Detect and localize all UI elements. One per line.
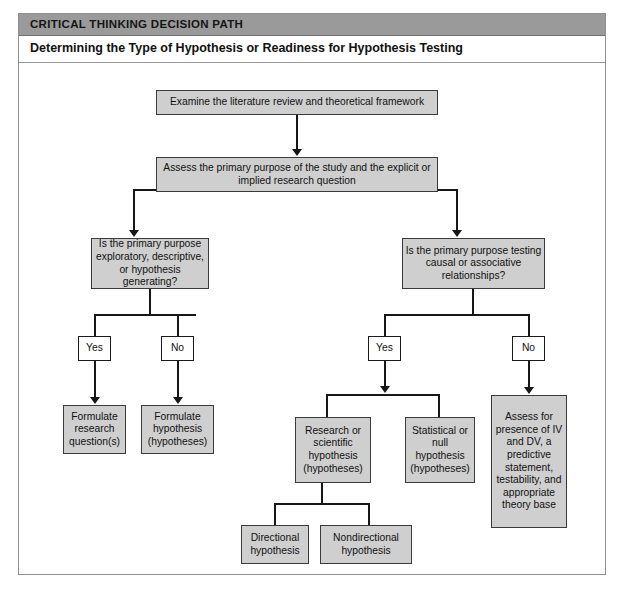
edge-to-statistical-hypothesis xyxy=(438,394,440,419)
edge-right-question-split-bar xyxy=(384,314,530,316)
edge-yes-left-down xyxy=(94,361,96,399)
node-no-left: No xyxy=(161,336,194,361)
node-formulate-hypothesis: Formulate hypothesis (hypotheses) xyxy=(141,405,214,454)
edge-right-question-stem xyxy=(472,289,474,316)
node-label: Research or scientific hypothesis (hypot… xyxy=(298,425,368,475)
node-statistical-hypothesis: Statistical or null hypothesis (hypothes… xyxy=(405,417,475,483)
edge-left-to-no xyxy=(177,314,179,338)
node-label: Assess for presence of IV and DV, a pred… xyxy=(494,411,564,512)
node-label: Is the primary purpose exploratory, desc… xyxy=(94,238,206,288)
node-label: Examine the literature review and theore… xyxy=(159,96,435,109)
node-examine-literature: Examine the literature review and theore… xyxy=(156,90,438,115)
node-label: No xyxy=(164,342,191,355)
node-label: Is the primary purpose testing causal or… xyxy=(405,245,542,283)
arrowhead-start-to-assess xyxy=(292,149,302,156)
panel-subheader-bar: Determining the Type of Hypothesis or Re… xyxy=(19,36,605,63)
node-yes-left: Yes xyxy=(78,336,111,361)
edge-left-question-split-bar xyxy=(94,314,196,316)
node-question-causal: Is the primary purpose testing causal or… xyxy=(402,238,545,289)
edge-yes-right-split-bar xyxy=(326,394,440,396)
edge-left-to-yes xyxy=(94,314,96,338)
edge-to-nondirectional xyxy=(368,503,370,527)
panel-header-bar: CRITICAL THINKING DECISION PATH xyxy=(19,14,605,36)
edge-yes-right-down xyxy=(384,361,386,389)
flowchart-canvas: Examine the literature review and theore… xyxy=(19,64,605,575)
node-label: No xyxy=(515,342,542,355)
panel-header-title: CRITICAL THINKING DECISION PATH xyxy=(30,18,243,30)
arrowhead-no-left xyxy=(173,397,183,404)
edge-to-research-hypothesis xyxy=(326,394,328,419)
node-label: Formulate research question(s) xyxy=(66,411,123,449)
edge-left-question-stem xyxy=(149,289,151,316)
node-label: Directional hypothesis xyxy=(244,532,306,557)
edge-assess-to-right-branch xyxy=(456,189,458,232)
node-label: Yes xyxy=(81,342,108,355)
node-formulate-research-question: Formulate research question(s) xyxy=(63,405,126,454)
flowchart-page: CRITICAL THINKING DECISION PATH Determin… xyxy=(0,0,622,592)
edge-directional-split-bar xyxy=(274,503,370,505)
node-no-right: No xyxy=(512,336,545,361)
node-label: Formulate hypothesis (hypotheses) xyxy=(144,411,211,449)
arrowhead-yes-left xyxy=(90,397,100,404)
edge-research-hypothesis-stem xyxy=(321,483,323,505)
node-label: Yes xyxy=(371,342,398,355)
node-question-exploratory: Is the primary purpose exploratory, desc… xyxy=(91,238,209,289)
edge-right-to-no xyxy=(528,314,530,338)
node-assess-primary-purpose: Assess the primary purpose of the study … xyxy=(156,157,438,192)
arrowhead-assess-right xyxy=(452,230,462,237)
critical-thinking-panel: CRITICAL THINKING DECISION PATH Determin… xyxy=(18,13,606,575)
edge-assess-to-left-branch xyxy=(133,189,135,232)
node-yes-right: Yes xyxy=(368,336,401,361)
node-label: Statistical or null hypothesis (hypothes… xyxy=(408,425,472,475)
node-label: Assess the primary purpose of the study … xyxy=(159,162,435,187)
node-assess-iv-dv: Assess for presence of IV and DV, a pred… xyxy=(491,395,567,528)
edge-right-to-yes xyxy=(384,314,386,338)
edge-to-directional xyxy=(274,503,276,527)
node-label: Nondirectional hypothesis xyxy=(323,532,409,557)
panel-subheader-title: Determining the Type of Hypothesis or Re… xyxy=(30,41,463,55)
arrowhead-no-right xyxy=(524,387,534,394)
arrowhead-assess-left xyxy=(129,230,139,237)
node-research-hypothesis: Research or scientific hypothesis (hypot… xyxy=(295,417,371,483)
node-nondirectional-hypothesis: Nondirectional hypothesis xyxy=(320,525,412,564)
edge-start-to-assess xyxy=(296,115,298,150)
arrowhead-yes-right xyxy=(380,386,390,393)
node-directional-hypothesis: Directional hypothesis xyxy=(241,525,309,564)
edge-no-left-down xyxy=(177,361,179,399)
edge-no-right-down xyxy=(528,361,530,389)
